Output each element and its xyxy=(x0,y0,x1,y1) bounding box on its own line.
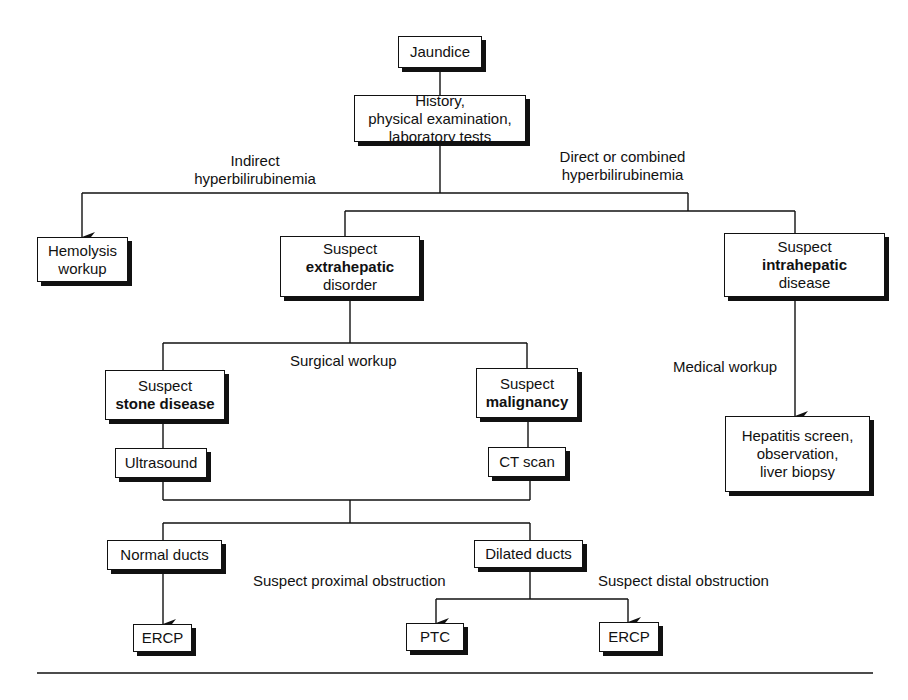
node-label: PTC xyxy=(420,628,450,646)
node-label: CT scan xyxy=(499,453,555,471)
node-label: Normal ducts xyxy=(120,546,208,564)
edge-label-proximal-obstruction: Suspect proximal obstruction xyxy=(253,572,446,590)
node-ptc[interactable]: PTC xyxy=(406,623,464,651)
node-label: Jaundice xyxy=(410,43,470,61)
edge-label-direct: Direct or combined hyperbilirubinemia xyxy=(540,148,705,184)
node-label: workup xyxy=(58,260,106,278)
node-label: disease xyxy=(779,274,831,292)
node-label: disorder xyxy=(323,276,377,294)
node-jaundice[interactable]: Jaundice xyxy=(398,36,482,68)
node-label: Suspect xyxy=(777,238,831,256)
node-label: Ultrasound xyxy=(125,454,198,472)
edge-label-line: hyperbilirubinemia xyxy=(540,166,705,184)
flowchart-canvas: Jaundice History, physical examination, … xyxy=(0,0,908,700)
edge-label-line: Direct or combined xyxy=(540,148,705,166)
node-label: liver biopsy xyxy=(760,463,835,481)
node-label-bold: intrahepatic xyxy=(762,256,847,274)
edge-label-distal-obstruction: Suspect distal obstruction xyxy=(598,572,769,590)
node-label: physical examination, xyxy=(368,110,511,128)
edge-label-indirect: Indirect hyperbilirubinemia xyxy=(180,152,330,188)
node-suspect-stone-disease[interactable]: Suspect stone disease xyxy=(105,370,225,420)
node-history[interactable]: History, physical examination, laborator… xyxy=(354,95,526,142)
node-suspect-extrahepatic[interactable]: Suspect extrahepatic disorder xyxy=(280,236,420,297)
node-label: Suspect xyxy=(500,375,554,393)
edge-label-surgical-workup: Surgical workup xyxy=(290,352,397,370)
node-label-bold: malignancy xyxy=(486,393,569,411)
node-label: laboratory tests xyxy=(389,128,492,146)
node-suspect-malignancy[interactable]: Suspect malignancy xyxy=(476,368,578,418)
node-label-bold: stone disease xyxy=(115,395,214,413)
node-ercp-right[interactable]: ERCP xyxy=(599,622,659,652)
node-label: ERCP xyxy=(142,629,184,647)
node-ct-scan[interactable]: CT scan xyxy=(488,447,566,477)
node-hepatitis-screen[interactable]: Hepatitis screen, observation, liver bio… xyxy=(725,416,870,492)
node-label: Hepatitis screen, xyxy=(742,427,854,445)
node-hemolysis-workup[interactable]: Hemolysis workup xyxy=(37,237,128,282)
node-label: Suspect xyxy=(138,377,192,395)
node-dilated-ducts[interactable]: Dilated ducts xyxy=(474,540,583,568)
node-ultrasound[interactable]: Ultrasound xyxy=(115,448,207,478)
node-label: ERCP xyxy=(608,628,650,646)
edge-label-medical-workup: Medical workup xyxy=(673,358,777,376)
node-label: Dilated ducts xyxy=(485,545,572,563)
node-label-bold: extrahepatic xyxy=(306,258,394,276)
edge-label-line: Indirect xyxy=(180,152,330,170)
node-label: observation, xyxy=(757,445,839,463)
node-ercp-left[interactable]: ERCP xyxy=(133,624,192,652)
node-label: History, xyxy=(415,92,465,110)
node-normal-ducts[interactable]: Normal ducts xyxy=(107,540,222,570)
node-suspect-intrahepatic[interactable]: Suspect intrahepatic disease xyxy=(724,233,885,297)
node-label: Hemolysis xyxy=(48,242,117,260)
node-label: Suspect xyxy=(323,240,377,258)
edge-label-line: hyperbilirubinemia xyxy=(180,170,330,188)
